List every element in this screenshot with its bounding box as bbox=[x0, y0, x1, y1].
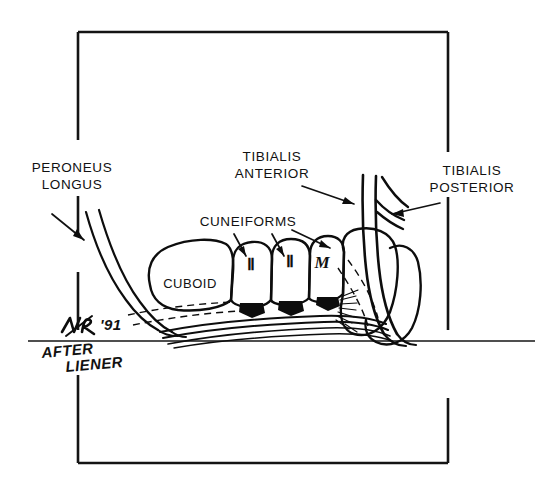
tibialis-tendons bbox=[363, 175, 416, 346]
figure-canvas: CUBOID Ⅱ Ⅱ M bbox=[0, 0, 559, 491]
tibialis-posterior-label-line1: TIBIALIS bbox=[443, 163, 502, 178]
intermediate-cuneiform-numeral: Ⅱ bbox=[286, 253, 294, 270]
medial-cuneiform-base bbox=[316, 297, 340, 311]
tibialis-posterior-label-line2: POSTERIOR bbox=[430, 180, 515, 195]
attribution-line2: LIENER bbox=[65, 353, 124, 375]
intermediate-cuneiform-base bbox=[278, 301, 304, 316]
cuboid-label: CUBOID bbox=[163, 276, 217, 291]
tibialis-anterior-arrowhead bbox=[342, 197, 354, 204]
attribution: AFTER LIENER bbox=[40, 340, 124, 375]
tibialis-anterior-label-line1: TIBIALIS bbox=[243, 149, 302, 164]
lateral-cuneiform-base bbox=[239, 303, 265, 318]
label-peroneus-longus: PERONEUS LONGUS bbox=[32, 160, 113, 240]
artist-signature: '91 bbox=[62, 316, 121, 336]
intermediate-cuneiform-bone: Ⅱ bbox=[271, 239, 310, 316]
peroneus-longus-label-line2: LONGUS bbox=[42, 177, 103, 192]
signature-year: '91 bbox=[100, 316, 121, 333]
medial-cuneiform-label: M bbox=[313, 253, 330, 272]
cuneiforms-arrowhead-medial bbox=[319, 240, 330, 248]
peroneus-longus-label-line1: PERONEUS bbox=[32, 160, 113, 175]
label-tibialis-anterior: TIBIALIS ANTERIOR bbox=[235, 149, 354, 204]
label-tibialis-posterior: TIBIALIS POSTERIOR bbox=[392, 163, 514, 217]
cuboid-bone: CUBOID bbox=[149, 240, 233, 311]
lateral-cuneiform-numeral: Ⅱ bbox=[247, 256, 255, 273]
tibialis-anterior-label-line2: ANTERIOR bbox=[235, 166, 310, 181]
lateral-cuneiform-bone: Ⅱ bbox=[231, 242, 272, 318]
cuneiforms-label: CUNEIFORMS bbox=[200, 214, 297, 229]
cuneiforms-arrowhead-intermediate bbox=[276, 246, 284, 256]
calcaneus-outline bbox=[365, 246, 420, 345]
